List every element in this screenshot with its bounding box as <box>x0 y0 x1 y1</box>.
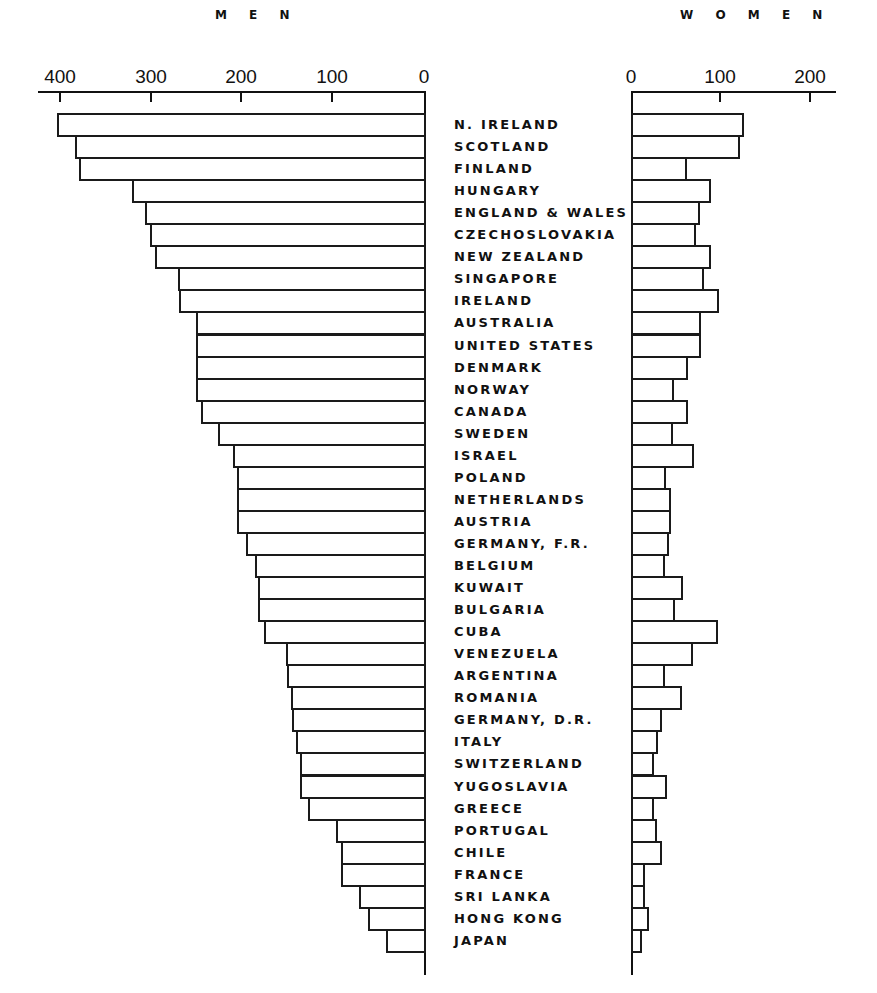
country-label: SWITZERLAND <box>454 753 584 775</box>
country-label: KUWAIT <box>454 577 525 599</box>
country-label: SWEDEN <box>454 423 530 445</box>
women-axis-line <box>631 91 836 93</box>
women-tick <box>719 93 721 102</box>
country-label: NETHERLANDS <box>454 489 586 511</box>
women-bar <box>631 819 657 843</box>
women-bar <box>631 245 711 269</box>
women-bar <box>631 113 744 137</box>
country-label: SINGAPORE <box>454 268 559 290</box>
women-bar <box>631 267 704 291</box>
women-bar <box>631 664 665 688</box>
country-label: ENGLAND & WALES <box>454 202 628 224</box>
men-bar <box>196 356 426 380</box>
men-bar <box>179 289 426 313</box>
country-label: CANADA <box>454 401 529 423</box>
country-label: AUSTRALIA <box>454 312 556 334</box>
men-bar <box>386 929 426 953</box>
country-label: NEW ZEALAND <box>454 246 585 268</box>
women-bar <box>631 444 694 468</box>
country-label: AUSTRIA <box>454 511 533 533</box>
women-bar <box>631 378 674 402</box>
men-bar <box>196 311 426 335</box>
women-bar <box>631 157 687 181</box>
country-label: BULGARIA <box>454 599 546 621</box>
country-label: NORWAY <box>454 379 531 401</box>
men-bar <box>291 686 426 710</box>
men-bar <box>155 245 426 269</box>
country-label: VENEZUELA <box>454 643 560 665</box>
women-bar <box>631 863 645 887</box>
women-tick-label: 200 <box>794 66 826 88</box>
men-bar <box>75 135 426 159</box>
country-label: GREECE <box>454 798 524 820</box>
country-label: CUBA <box>454 621 503 643</box>
women-bar <box>631 488 671 512</box>
men-bar <box>196 334 426 358</box>
women-bar <box>631 730 658 754</box>
men-bar <box>57 113 426 137</box>
women-tick-label: 0 <box>626 66 637 88</box>
men-bar <box>145 201 426 225</box>
women-bar <box>631 576 683 600</box>
women-tick-label: 100 <box>704 66 736 88</box>
country-label: SRI LANKA <box>454 886 552 908</box>
country-label: FINLAND <box>454 158 534 180</box>
men-bar <box>237 510 426 534</box>
country-label: ARGENTINA <box>454 665 559 687</box>
country-label: HUNGARY <box>454 180 541 202</box>
men-bar <box>287 664 426 688</box>
men-tick-label: 200 <box>225 66 257 88</box>
men-tick-label: 100 <box>316 66 348 88</box>
country-label: CZECHOSLOVAKIA <box>454 224 616 246</box>
men-tick-label: 0 <box>419 66 430 88</box>
country-label: HONG KONG <box>454 908 564 930</box>
women-bar <box>631 797 654 821</box>
women-bar <box>631 179 711 203</box>
country-label: GERMANY, F.R. <box>454 533 590 555</box>
men-bar <box>292 708 426 732</box>
men-tick <box>331 93 333 102</box>
country-label: BELGIUM <box>454 555 535 577</box>
men-tick <box>59 93 61 102</box>
men-bar <box>237 488 426 512</box>
women-bar <box>631 686 682 710</box>
men-bar <box>150 223 426 247</box>
men-tick-label: 400 <box>44 66 76 88</box>
women-bar <box>631 356 688 380</box>
country-label: IRELAND <box>454 290 533 312</box>
women-bar <box>631 708 662 732</box>
men-bar <box>359 885 426 909</box>
men-bar <box>196 378 426 402</box>
men-bar <box>300 775 426 799</box>
country-label: FRANCE <box>454 864 525 886</box>
country-label: PORTUGAL <box>454 820 550 842</box>
country-label: ROMANIA <box>454 687 539 709</box>
women-bar <box>631 135 740 159</box>
country-label: JAPAN <box>454 930 509 952</box>
men-panel-title: M E N <box>215 8 299 22</box>
men-bar <box>300 752 426 776</box>
women-bar <box>631 422 673 446</box>
women-bar <box>631 929 642 953</box>
men-bar <box>132 179 426 203</box>
country-label: DENMARK <box>454 357 543 379</box>
country-label: POLAND <box>454 467 528 489</box>
women-bar <box>631 642 693 666</box>
country-label: ITALY <box>454 731 503 753</box>
women-bar <box>631 223 696 247</box>
men-bar <box>237 466 426 490</box>
men-bar <box>296 730 426 754</box>
men-bar <box>264 620 426 644</box>
men-bar <box>79 157 426 181</box>
women-bar <box>631 554 665 578</box>
women-bar <box>631 598 675 622</box>
women-bar <box>631 201 700 225</box>
men-tick <box>150 93 152 102</box>
men-bar <box>341 863 426 887</box>
women-bar <box>631 532 669 556</box>
women-bar <box>631 400 688 424</box>
men-bar <box>258 598 426 622</box>
men-axis-line <box>38 91 426 93</box>
women-panel-title: W O M E N <box>680 8 831 22</box>
country-label: GERMANY, D.R. <box>454 709 594 731</box>
